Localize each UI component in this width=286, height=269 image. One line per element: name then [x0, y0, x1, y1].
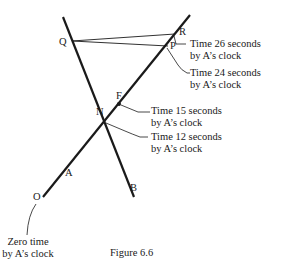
leader-f [121, 105, 150, 112]
annotation-time-24: Time 24 seconds by A’s clock [190, 67, 261, 91]
label-line-b: B [130, 182, 137, 193]
annotation-time-15: Time 15 seconds by A’s clock [151, 105, 222, 129]
point-f-dot [117, 102, 121, 106]
annotation-time-15-line1: Time 15 seconds [151, 105, 222, 117]
label-point-f: F [116, 90, 122, 101]
annotation-time-24-line1: Time 24 seconds [190, 67, 261, 79]
annotation-time-26-line2: by A’s clock [190, 50, 261, 62]
annotation-time-26: Time 26 seconds by A’s clock [190, 38, 261, 62]
label-point-q: Q [59, 36, 67, 47]
label-point-p: P [170, 40, 176, 51]
annotation-time-12-line2: by A’s clock [151, 143, 222, 155]
leader-n [106, 123, 148, 137]
label-point-r: R [179, 26, 186, 37]
annotation-time-26-line1: Time 26 seconds [190, 38, 261, 50]
leader-o [27, 204, 36, 235]
figure-caption: Figure 6.6 [110, 247, 153, 259]
signal-q-p [72, 41, 168, 46]
label-point-o: O [33, 191, 41, 202]
annotation-time-12: Time 12 seconds by A’s clock [151, 131, 222, 155]
annotation-zero-time-line2: by A’s clock [0, 248, 56, 260]
signal-q-r [72, 34, 175, 41]
annotation-zero-time: Zero time by A’s clock [0, 236, 56, 260]
label-line-a: A [65, 167, 73, 178]
annotation-time-12-line1: Time 12 seconds [151, 131, 222, 143]
annotation-time-24-line2: by A’s clock [190, 79, 261, 91]
annotation-time-15-line2: by A’s clock [151, 117, 222, 129]
label-point-n: N [96, 106, 104, 117]
leader-p [167, 48, 190, 73]
annotation-zero-time-line1: Zero time [0, 236, 56, 248]
